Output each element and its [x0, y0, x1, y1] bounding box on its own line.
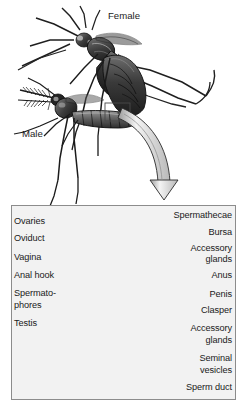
label-accessory-glands-2-line1: Accessory: [191, 323, 232, 334]
male-label: Male: [22, 128, 43, 139]
mosquito-pair-illustration: [14, 6, 215, 206]
female-mosquito: [18, 6, 215, 156]
label-seminal-vesicles-line1: Seminal: [200, 353, 233, 364]
label-sperm-duct: Sperm duct: [186, 382, 232, 393]
label-penis: Penis: [210, 289, 232, 300]
label-vagina: Vagina: [14, 252, 41, 263]
label-accessory-glands-1-line2: glands: [206, 254, 232, 265]
female-label: Female: [108, 10, 140, 21]
label-clasper: Clasper: [201, 305, 232, 316]
label-spermathecae: Spermathecae: [173, 210, 232, 221]
label-spermatophores-line2: phores: [14, 300, 42, 311]
curved-down-arrow: [118, 108, 178, 200]
label-spermatophores-line1: Spermato-: [14, 288, 56, 299]
label-bursa: Bursa: [208, 227, 232, 238]
mosquito-mating-figure: pb: [0, 0, 246, 415]
label-anal-hook: Anal hook: [14, 270, 54, 281]
label-testis: Testis: [14, 318, 37, 329]
label-accessory-glands-1-line1: Accessory: [191, 243, 232, 254]
label-seminal-vesicles-line2: vesicles: [200, 365, 232, 376]
label-anus: Anus: [211, 270, 232, 281]
label-ovaries: Ovaries: [14, 216, 45, 227]
label-oviduct: Oviduct: [14, 233, 44, 244]
label-accessory-glands-2-line2: glands: [206, 335, 232, 346]
